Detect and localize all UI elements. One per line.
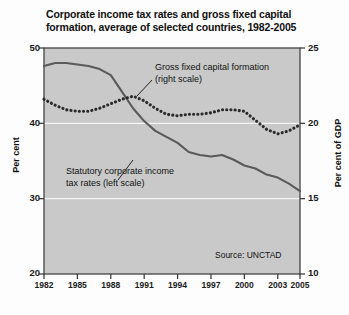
x-axis-tick-label: 1982 xyxy=(27,280,61,290)
x-axis-tick-label: 1985 xyxy=(60,280,94,290)
annotation-statutory-tax-rates: Statutory corporate income tax rates (le… xyxy=(66,166,176,189)
y-axis-right-title: Per cent of GDP xyxy=(333,111,343,195)
y-axis-right-tick-20: 20 xyxy=(308,117,330,128)
annotation-gross-fixed-capital-formation: Gross fixed capital formation (right sca… xyxy=(155,62,285,85)
x-axis-tick-label: 1988 xyxy=(94,280,128,290)
y-axis-right-tick-15: 15 xyxy=(308,192,330,203)
y-axis-left-tick-40: 40 xyxy=(18,117,40,128)
y-axis-right-tick-10: 10 xyxy=(308,267,330,278)
y-axis-left-title: Per cent xyxy=(11,125,21,185)
y-axis-right-tick-25: 25 xyxy=(308,42,330,53)
x-axis-tick-label: 1991 xyxy=(127,280,161,290)
y-axis-left-tick-20: 20 xyxy=(18,267,40,278)
chart-plot-area xyxy=(0,0,349,315)
chart-figure: Corporate income tax rates and gross fix… xyxy=(0,0,349,315)
y-axis-left-tick-50: 50 xyxy=(18,42,40,53)
x-axis-tick-label: 2005 xyxy=(283,280,317,290)
y-axis-left-tick-30: 30 xyxy=(18,192,40,203)
x-axis-tick-label: 2000 xyxy=(227,280,261,290)
x-axis-tick-label: 1994 xyxy=(161,280,195,290)
x-axis-tick-label: 1997 xyxy=(194,280,228,290)
source-note: Source: UNCTAD xyxy=(215,250,281,260)
